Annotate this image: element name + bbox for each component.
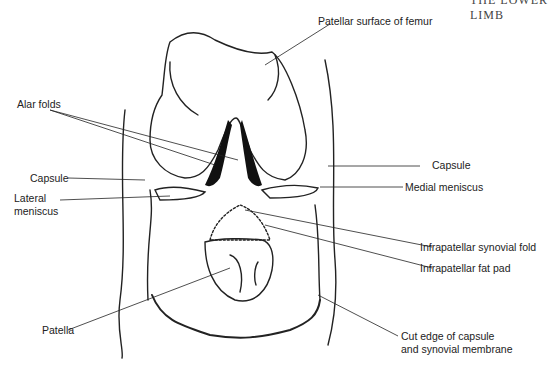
label-capsule-right: Capsule — [432, 159, 471, 172]
label-cut-edge-2: and synovial membrane — [401, 343, 512, 356]
fat-pad-outline — [210, 205, 270, 240]
alar-fold-left — [205, 120, 232, 186]
lateral-meniscus-shape — [155, 187, 205, 200]
femur-outline — [150, 33, 306, 180]
label-capsule-left: Capsule — [30, 172, 69, 185]
label-patellar-surface: Patellar surface of femur — [318, 15, 432, 28]
right-capsule-line — [325, 60, 336, 345]
label-patella: Patella — [42, 324, 74, 337]
label-infrapatellar-synovial-fold: Infrapatellar synovial fold — [420, 241, 536, 254]
left-capsule-line — [119, 110, 125, 358]
alar-fold-right — [240, 120, 262, 186]
cut-edge-outline — [152, 295, 320, 338]
label-lateral-meniscus-2: meniscus — [14, 205, 58, 218]
medial-meniscus-shape — [262, 186, 318, 198]
label-infrapatellar-fat-pad: Infrapatellar fat pad — [420, 262, 510, 275]
label-medial-meniscus: Medial meniscus — [405, 181, 483, 194]
patella-outline — [205, 239, 273, 301]
label-cut-edge-1: Cut edge of capsule — [401, 330, 494, 343]
label-lateral-meniscus-1: Lateral — [14, 192, 46, 205]
label-alar-folds: Alar folds — [17, 98, 61, 111]
